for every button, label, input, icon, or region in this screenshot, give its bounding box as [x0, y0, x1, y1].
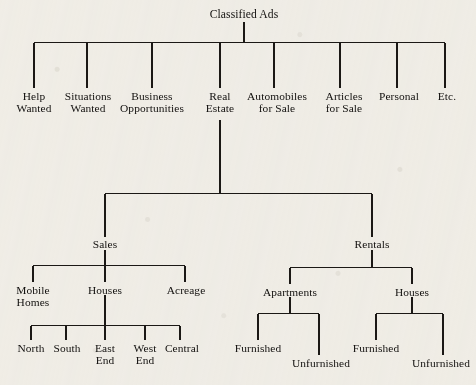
- node-personal[interactable]: Personal: [379, 90, 419, 102]
- node-east-end[interactable]: East End: [95, 342, 115, 367]
- node-rental-houses-unfurnished[interactable]: Unfurnished: [412, 357, 470, 369]
- node-apartments[interactable]: Apartments: [263, 286, 317, 298]
- node-automobiles-for-sale[interactable]: Automobiles for Sale: [247, 90, 307, 115]
- node-classified-ads[interactable]: Classified Ads: [210, 9, 279, 22]
- node-north[interactable]: North: [17, 342, 44, 354]
- node-rentals[interactable]: Rentals: [355, 238, 390, 250]
- node-etc[interactable]: Etc.: [438, 90, 456, 102]
- node-rental-houses-furnished[interactable]: Furnished: [353, 342, 399, 354]
- node-apartments-furnished[interactable]: Furnished: [235, 342, 281, 354]
- node-central[interactable]: Central: [165, 342, 199, 354]
- tree-connector-lines: [0, 0, 476, 385]
- node-mobile-homes[interactable]: Mobile Homes: [16, 284, 50, 309]
- node-rentals-houses[interactable]: Houses: [395, 286, 429, 298]
- node-apartments-unfurnished[interactable]: Unfurnished: [292, 357, 350, 369]
- node-sales[interactable]: Sales: [93, 238, 118, 250]
- node-articles-for-sale[interactable]: Articles for Sale: [326, 90, 363, 115]
- diagram-canvas: Classified Ads Help Wanted Situations Wa…: [0, 0, 476, 385]
- node-west-end[interactable]: West End: [134, 342, 157, 367]
- node-sales-houses[interactable]: Houses: [88, 284, 122, 296]
- node-acreage[interactable]: Acreage: [167, 284, 206, 296]
- node-help-wanted[interactable]: Help Wanted: [16, 90, 51, 115]
- node-real-estate[interactable]: Real Estate: [206, 90, 234, 115]
- node-situations-wanted[interactable]: Situations Wanted: [65, 90, 112, 115]
- node-south[interactable]: South: [53, 342, 80, 354]
- node-business-opportunities[interactable]: Business Opportunities: [120, 90, 184, 115]
